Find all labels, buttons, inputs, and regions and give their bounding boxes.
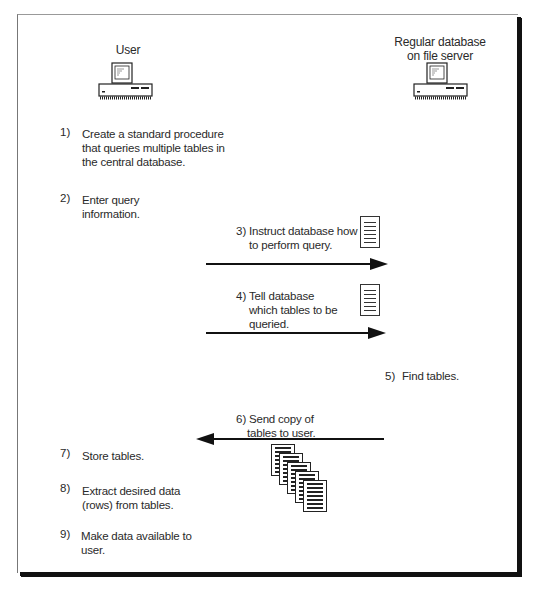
arrowhead-right <box>368 327 386 339</box>
step-4-line3: queried. <box>249 317 289 331</box>
desktop-computer-icon <box>413 62 469 102</box>
step-8-line1: Extract desired data <box>82 484 180 498</box>
frame-shadow-right <box>517 17 521 577</box>
step-7-number: 7) <box>60 446 70 460</box>
desktop-computer-icon <box>98 62 154 102</box>
step-3-number: 3) <box>236 224 246 238</box>
arrow-to-server <box>206 332 374 334</box>
server-label-line2: on file server <box>390 49 490 63</box>
step-6-line1: Send copy of <box>249 412 314 426</box>
document-icon <box>360 216 380 248</box>
step-3-line2: to perform query. <box>249 238 332 252</box>
step-7-line1: Store tables. <box>82 449 144 463</box>
frame-shadow-bottom <box>20 572 521 576</box>
step-2-line2: information. <box>82 207 140 221</box>
step-6-number: 6) <box>236 412 246 426</box>
document-icon <box>360 284 380 316</box>
step-4-number: 4) <box>236 289 246 303</box>
step-4-line1: Tell database <box>249 289 314 303</box>
step-9-line1: Make data available to <box>81 529 192 543</box>
step-1-number: 1) <box>60 125 70 139</box>
step-8-line2: (rows) from tables. <box>82 498 173 512</box>
server-label-line1: Regular database <box>390 35 490 49</box>
step-1-line1: Create a standard procedure <box>82 127 224 141</box>
arrow-to-user <box>212 438 384 440</box>
arrowhead-right <box>370 258 388 270</box>
step-2-line1: Enter query <box>82 193 139 207</box>
arrow-to-server <box>206 263 376 265</box>
step-9-number: 9) <box>60 527 70 541</box>
step-1-line2: that queries multiple tables in <box>82 141 225 155</box>
step-5-number: 5) <box>385 369 395 383</box>
step-1-line3: the central database. <box>82 155 185 169</box>
step-3-line1: Instruct database how <box>249 224 357 238</box>
step-4-line2: which tables to be <box>249 303 337 317</box>
step-8-number: 8) <box>60 481 70 495</box>
arrowhead-left <box>196 433 214 445</box>
step-9-line2: user. <box>81 543 105 557</box>
step-2-number: 2) <box>60 191 70 205</box>
step-5-line1: Find tables. <box>402 369 459 383</box>
user-label: User <box>98 43 158 57</box>
